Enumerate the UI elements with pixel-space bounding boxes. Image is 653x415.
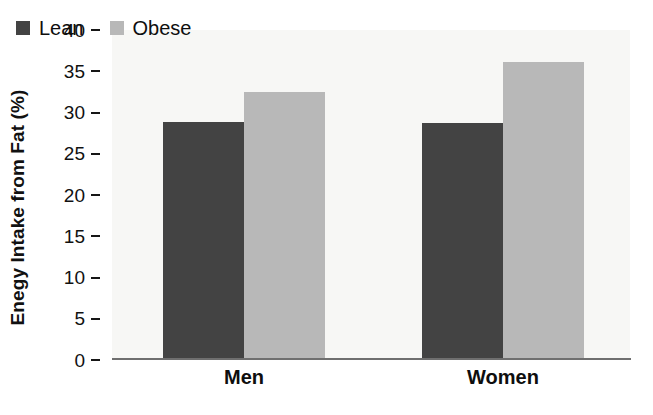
x-axis-tick-label-women: Women (443, 366, 563, 389)
legend-label: Obese (133, 18, 192, 38)
y-axis-tick-mark (91, 277, 100, 279)
y-axis-tick-labels: 0510152025303540 (42, 25, 100, 369)
bar-chart-figure: Enegy Intake from Fat (%) 05101520253035… (0, 0, 653, 415)
x-axis-tick-labels: MenWomen (112, 366, 631, 406)
y-axis-tick-label: 0 (74, 351, 85, 370)
x-axis-line (112, 358, 631, 360)
y-axis-tick-label: 35 (64, 62, 85, 81)
y-axis-title: Enegy Intake from Fat (%) (0, 0, 36, 415)
y-axis-tick-label: 20 (64, 186, 85, 205)
y-axis-tick: 35 (64, 60, 100, 82)
y-axis-tick-label: 25 (64, 144, 85, 163)
y-axis-tick: 30 (64, 102, 100, 124)
legend-item-lean[interactable]: Lean (16, 18, 84, 38)
y-axis-tick: 20 (64, 184, 100, 206)
bar-men-obese (244, 92, 325, 360)
plot-area (112, 30, 630, 360)
y-axis-tick: 0 (74, 349, 100, 371)
bar-men-lean (163, 122, 244, 360)
y-axis-tick-mark (91, 70, 100, 72)
y-axis-tick: 15 (64, 225, 100, 247)
legend-label: Lean (39, 18, 84, 38)
bar-women-obese (503, 62, 584, 360)
legend-swatch-lean (16, 21, 30, 35)
x-axis-tick-label-men: Men (184, 366, 304, 389)
y-axis-tick-label: 5 (74, 309, 85, 328)
y-axis-tick: 5 (74, 308, 100, 330)
y-axis-tick-label: 30 (64, 103, 85, 122)
legend: LeanObese (16, 18, 191, 38)
y-axis-tick-mark (91, 359, 100, 361)
bar-women-lean (422, 123, 503, 360)
y-axis-tick: 25 (64, 143, 100, 165)
y-axis-tick-mark (91, 112, 100, 114)
y-axis-tick: 10 (64, 267, 100, 289)
legend-swatch-obese (110, 21, 124, 35)
y-axis-tick-mark (91, 153, 100, 155)
legend-item-obese[interactable]: Obese (110, 18, 192, 38)
y-axis-tick-label: 10 (64, 268, 85, 287)
y-axis-tick-mark (91, 194, 100, 196)
y-axis-tick-mark (91, 235, 100, 237)
y-axis-tick-label: 15 (64, 227, 85, 246)
y-axis-tick-mark (91, 318, 100, 320)
